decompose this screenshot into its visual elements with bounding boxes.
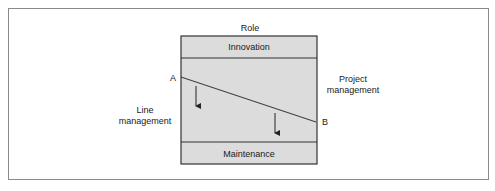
- point-b-label: B: [320, 117, 330, 128]
- maintenance-label: Maintenance: [181, 149, 317, 160]
- innovation-label: Innovation: [181, 42, 317, 53]
- line-management-label: Linemanagement: [110, 105, 180, 127]
- role-title: Role: [230, 23, 270, 34]
- point-a-label: A: [168, 73, 178, 84]
- project-management-label: Projectmanagement: [318, 74, 388, 96]
